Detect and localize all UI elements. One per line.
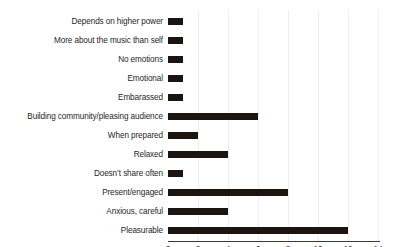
bar-row: Anxious, careful [0,202,400,221]
bar [168,151,228,158]
bar [168,94,183,101]
bar-row: When prepared [0,126,400,145]
bar [168,227,348,234]
category-label: Doesn’t share often [0,164,163,183]
category-label: Emotional [0,69,163,88]
category-label: No emotions [0,50,163,69]
bar [168,170,183,177]
bar [168,37,183,44]
bar-row: No emotions [0,50,400,69]
bar-row: Present/engaged [0,183,400,202]
bar [168,132,198,139]
bar-row: Relaxed [0,145,400,164]
category-label: Anxious, careful [0,202,163,221]
category-label: When prepared [0,126,163,145]
bar-row: Embarassed [0,88,400,107]
bar-row: Building community/pleasing audience [0,107,400,126]
category-label: Present/engaged [0,183,163,202]
plot-area: Depends on higher powerMore about the mu… [0,0,400,247]
category-label: Embarassed [0,88,163,107]
category-label: More about the music than self [0,31,163,50]
bar-row: Pleasurable [0,221,400,240]
bar [168,113,258,120]
category-label: Relaxed [0,145,163,164]
category-label: Building community/pleasing audience [0,107,163,126]
bar [168,56,183,63]
category-label: Pleasurable [0,221,163,240]
bar [168,189,288,196]
bar [168,75,183,82]
bar [168,18,183,25]
bar-row: Emotional [0,69,400,88]
bar-row: Doesn’t share often [0,164,400,183]
bar [168,208,228,215]
x-axis-line [168,241,380,242]
bar-row: More about the music than self [0,31,400,50]
bar-chart: Depends on higher powerMore about the mu… [0,0,400,247]
bar-row: Depends on higher power [0,12,400,31]
category-label: Depends on higher power [0,12,163,31]
